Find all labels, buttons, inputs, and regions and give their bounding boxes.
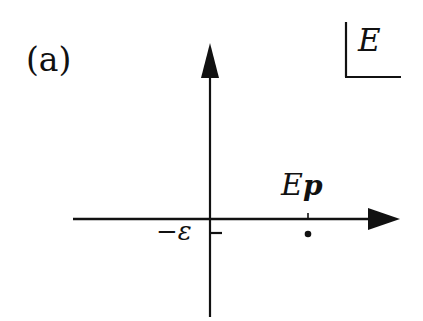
minus-sign: − xyxy=(156,216,178,246)
epsilon-symbol: ε xyxy=(178,216,192,246)
momentum-subscript: p xyxy=(303,169,323,202)
vertical-axis-arrowhead-icon xyxy=(201,43,219,78)
energy-symbol: E xyxy=(281,167,303,202)
complex-energy-plane-diagram: (a) E −ε Ep xyxy=(0,0,423,321)
unit-box-label: E xyxy=(358,25,381,56)
horizontal-axis-arrowhead-icon xyxy=(368,208,400,230)
horizontal-axis xyxy=(73,208,400,230)
panel-label: (a) xyxy=(26,43,71,76)
pole-point xyxy=(305,231,312,238)
ep-point-label: Ep xyxy=(281,170,322,200)
vertical-axis xyxy=(201,43,219,317)
minus-epsilon-label: −ε xyxy=(156,218,192,244)
